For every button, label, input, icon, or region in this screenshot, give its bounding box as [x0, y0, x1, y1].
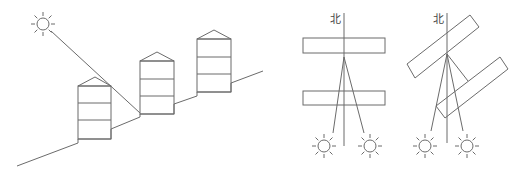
- north-label: 北: [330, 13, 341, 26]
- building-2: [140, 52, 174, 114]
- building-1: [78, 77, 111, 139]
- sunlight-spacing-diagram: 北 北: [0, 0, 523, 176]
- sun-icon-left: [312, 134, 336, 158]
- sun-ray: [51, 31, 140, 113]
- sun-icon-right: [358, 134, 382, 158]
- rotated-plan-panel: 北: [407, 13, 508, 158]
- sun-icon-left: [413, 134, 437, 158]
- north-label: 北: [433, 13, 444, 26]
- sun-ray-left: [431, 54, 447, 131]
- sun-icon-right: [455, 134, 479, 158]
- building-3: [197, 30, 231, 92]
- parallel-plan-panel: 北: [303, 13, 385, 158]
- slope-section-panel: [17, 12, 263, 166]
- sun-icon: [31, 12, 55, 36]
